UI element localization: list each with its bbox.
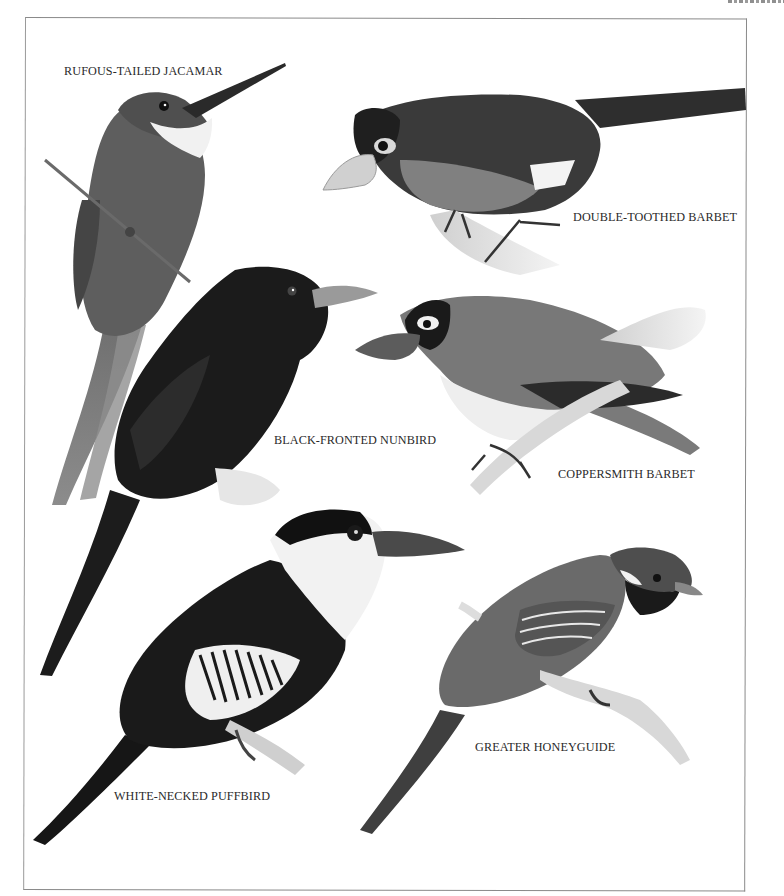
label-black-fronted-nunbird: BLACK-FRONTED NUNBIRD	[274, 433, 436, 448]
label-coppersmith-barbet: COPPERSMITH BARBET	[558, 467, 695, 482]
bird-illustrations	[0, 0, 784, 896]
label-greater-honeyguide: GREATER HONEYGUIDE	[475, 740, 615, 755]
honeyguide-illustration	[360, 548, 703, 835]
double-toothed-barbet-illustration	[323, 88, 746, 275]
label-white-necked-puffbird: WHITE-NECKED PUFFBIRD	[114, 789, 270, 804]
coppersmith-barbet-illustration	[355, 296, 706, 495]
label-rufous-tailed-jacamar: RUFOUS-TAILED JACAMAR	[64, 64, 223, 79]
label-double-toothed-barbet: DOUBLE-TOOTHED BARBET	[573, 210, 737, 225]
